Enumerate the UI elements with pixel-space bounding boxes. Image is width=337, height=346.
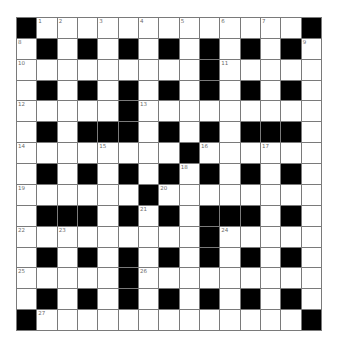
answer-cell[interactable]	[302, 101, 321, 121]
answer-cell[interactable]	[180, 101, 199, 121]
answer-cell[interactable]	[139, 248, 158, 268]
answer-cell[interactable]	[302, 143, 321, 163]
answer-cell[interactable]	[241, 143, 260, 163]
answer-cell[interactable]	[220, 81, 239, 101]
answer-cell[interactable]	[98, 248, 117, 268]
answer-cell[interactable]	[180, 289, 199, 309]
answer-cell[interactable]	[220, 143, 239, 163]
answer-cell[interactable]	[200, 18, 219, 38]
answer-cell[interactable]	[119, 227, 138, 247]
answer-cell[interactable]	[159, 101, 178, 121]
answer-cell[interactable]	[98, 206, 117, 226]
answer-cell[interactable]	[58, 143, 77, 163]
answer-cell[interactable]: 19	[17, 185, 36, 205]
answer-cell[interactable]	[261, 248, 280, 268]
answer-cell[interactable]	[78, 268, 97, 288]
answer-cell[interactable]	[58, 60, 77, 80]
answer-cell[interactable]	[159, 227, 178, 247]
answer-cell[interactable]	[119, 310, 138, 330]
answer-cell[interactable]	[261, 206, 280, 226]
answer-cell[interactable]: 7	[261, 18, 280, 38]
answer-cell[interactable]	[180, 122, 199, 142]
answer-cell[interactable]	[261, 268, 280, 288]
answer-cell[interactable]	[17, 81, 36, 101]
answer-cell[interactable]	[261, 101, 280, 121]
answer-cell[interactable]	[180, 310, 199, 330]
answer-cell[interactable]	[139, 60, 158, 80]
answer-cell[interactable]	[37, 185, 56, 205]
answer-cell[interactable]: 27	[37, 310, 56, 330]
answer-cell[interactable]	[220, 310, 239, 330]
answer-cell[interactable]: 16	[200, 143, 219, 163]
answer-cell[interactable]	[37, 60, 56, 80]
answer-cell[interactable]	[241, 101, 260, 121]
answer-cell[interactable]	[139, 310, 158, 330]
answer-cell[interactable]: 8	[17, 39, 36, 59]
answer-cell[interactable]	[241, 18, 260, 38]
answer-cell[interactable]: 12	[17, 101, 36, 121]
answer-cell[interactable]	[139, 122, 158, 142]
answer-cell[interactable]	[281, 143, 300, 163]
answer-cell[interactable]	[17, 164, 36, 184]
answer-cell[interactable]	[281, 310, 300, 330]
answer-cell[interactable]	[261, 289, 280, 309]
answer-cell[interactable]: 17	[261, 143, 280, 163]
answer-cell[interactable]	[261, 60, 280, 80]
answer-cell[interactable]	[58, 164, 77, 184]
answer-cell[interactable]	[200, 185, 219, 205]
answer-cell[interactable]	[281, 101, 300, 121]
answer-cell[interactable]	[78, 143, 97, 163]
answer-cell[interactable]	[281, 18, 300, 38]
answer-cell[interactable]	[302, 289, 321, 309]
answer-cell[interactable]	[200, 268, 219, 288]
answer-cell[interactable]	[98, 310, 117, 330]
answer-cell[interactable]	[17, 206, 36, 226]
answer-cell[interactable]	[98, 164, 117, 184]
answer-cell[interactable]	[139, 227, 158, 247]
answer-cell[interactable]	[241, 227, 260, 247]
answer-cell[interactable]	[58, 185, 77, 205]
answer-cell[interactable]	[78, 60, 97, 80]
answer-cell[interactable]	[261, 81, 280, 101]
answer-cell[interactable]	[159, 18, 178, 38]
answer-cell[interactable]	[58, 39, 77, 59]
answer-cell[interactable]	[302, 164, 321, 184]
answer-cell[interactable]	[78, 310, 97, 330]
answer-cell[interactable]	[98, 81, 117, 101]
answer-cell[interactable]: 15	[98, 143, 117, 163]
answer-cell[interactable]	[220, 248, 239, 268]
answer-cell[interactable]	[98, 60, 117, 80]
answer-cell[interactable]	[78, 227, 97, 247]
answer-cell[interactable]: 26	[139, 268, 158, 288]
answer-cell[interactable]	[58, 268, 77, 288]
answer-cell[interactable]	[58, 81, 77, 101]
answer-cell[interactable]	[58, 248, 77, 268]
answer-cell[interactable]	[302, 81, 321, 101]
answer-cell[interactable]	[98, 227, 117, 247]
answer-cell[interactable]: 25	[17, 268, 36, 288]
answer-cell[interactable]	[220, 185, 239, 205]
answer-cell[interactable]	[180, 81, 199, 101]
answer-cell[interactable]	[58, 122, 77, 142]
answer-cell[interactable]	[139, 143, 158, 163]
answer-cell[interactable]	[200, 310, 219, 330]
answer-cell[interactable]	[37, 143, 56, 163]
answer-cell[interactable]	[302, 248, 321, 268]
answer-cell[interactable]	[139, 81, 158, 101]
answer-cell[interactable]: 6	[220, 18, 239, 38]
answer-cell[interactable]	[281, 60, 300, 80]
answer-cell[interactable]: 2	[58, 18, 77, 38]
answer-cell[interactable]	[302, 185, 321, 205]
answer-cell[interactable]: 1	[37, 18, 56, 38]
answer-cell[interactable]	[119, 18, 138, 38]
answer-cell[interactable]	[139, 164, 158, 184]
answer-cell[interactable]	[17, 122, 36, 142]
answer-cell[interactable]	[159, 310, 178, 330]
answer-cell[interactable]	[281, 268, 300, 288]
answer-cell[interactable]	[37, 101, 56, 121]
answer-cell[interactable]	[180, 248, 199, 268]
answer-cell[interactable]	[180, 227, 199, 247]
answer-cell[interactable]	[241, 60, 260, 80]
answer-cell[interactable]	[37, 227, 56, 247]
answer-cell[interactable]	[220, 39, 239, 59]
